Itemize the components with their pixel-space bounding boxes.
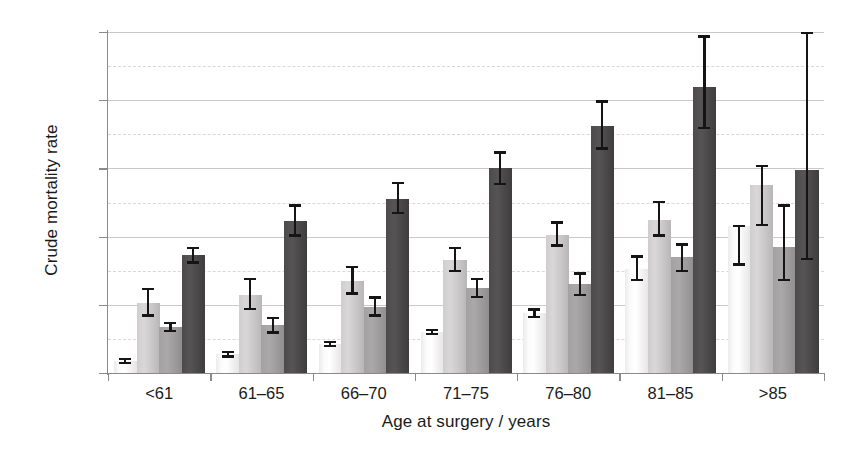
error-bar-series-2-<61 <box>137 288 160 317</box>
error-bar-series-3->85 <box>773 204 796 281</box>
error-bar-cap-upper <box>698 35 710 37</box>
error-bar-series-4-76–80 <box>591 100 614 149</box>
bar-series-4-81–85 <box>693 87 716 373</box>
bar-series-1-76–80 <box>523 313 546 373</box>
error-bar-cap-upper <box>528 308 540 310</box>
bar-series-4-71–75 <box>489 168 512 373</box>
error-bar-series-4->85 <box>795 32 818 260</box>
error-bar-series-2->85 <box>750 165 773 226</box>
error-bar-series-1-71–75 <box>421 329 444 336</box>
x-category-label->85: >85 <box>722 384 824 403</box>
bar-series-3-76–80 <box>568 284 591 373</box>
error-bar-cap-upper <box>289 204 301 206</box>
x-tick-mark <box>415 373 416 381</box>
y-tick-mark <box>99 305 108 306</box>
error-bar-stem <box>579 272 581 296</box>
error-bar-cap-upper <box>369 296 381 298</box>
bar-series-2-66–70 <box>341 281 364 373</box>
bar-series-2-71–75 <box>443 260 466 373</box>
error-bar-cap-upper <box>494 151 506 153</box>
x-category-label-61–65: 61–65 <box>210 384 312 403</box>
error-bar-cap-lower <box>471 296 483 298</box>
error-bar-cap-lower <box>596 147 608 149</box>
error-bar-series-1-81–85 <box>625 255 648 281</box>
error-bar-cap-upper <box>653 201 665 203</box>
error-bar-cap-upper <box>324 341 336 343</box>
error-bar-series-2-76–80 <box>546 221 569 247</box>
error-bar-stem <box>738 225 740 266</box>
x-category-label-81–85: 81–85 <box>619 384 721 403</box>
bar-series-2-81–85 <box>648 220 671 373</box>
error-bar-cap-upper <box>631 255 643 257</box>
bar-series-4-76–80 <box>591 126 614 373</box>
error-bar-series-1-61–65 <box>216 351 239 358</box>
error-bar-cap-lower <box>653 234 665 236</box>
error-bar-cap-upper <box>471 278 483 280</box>
error-bar-series-2-81–85 <box>648 201 671 237</box>
error-bar-cap-lower <box>494 183 506 185</box>
x-category-label-76–80: 76–80 <box>517 384 619 403</box>
error-bar-series-2-66–70 <box>341 266 364 295</box>
error-bar-series-3-66–70 <box>364 296 387 316</box>
error-bar-series-3-71–75 <box>466 278 489 298</box>
error-bar-stem <box>658 201 660 237</box>
error-bar-series-2-71–75 <box>443 247 466 273</box>
error-bar-cap-upper <box>346 266 358 268</box>
error-bar-stem <box>249 278 251 310</box>
bar-series-4-66–70 <box>386 199 409 373</box>
error-bar-series-4-61–65 <box>284 204 307 236</box>
bar-series-3-81–85 <box>671 257 694 373</box>
error-bar-stem <box>499 151 501 185</box>
error-bar-cap-upper <box>801 32 813 34</box>
error-bar-series-4-71–75 <box>489 151 512 185</box>
bar-series-4-61–65 <box>284 221 307 373</box>
bar-series-4-<61 <box>182 255 205 373</box>
bar-series-3-<61 <box>159 327 182 373</box>
error-bar-cap-lower <box>756 224 768 226</box>
error-bar-cap-lower <box>426 333 438 335</box>
gridline-major <box>108 237 824 238</box>
error-bar-stem <box>806 32 808 260</box>
error-bar-stem <box>556 221 558 247</box>
error-bar-stem <box>783 204 785 281</box>
gridline-major <box>108 100 824 101</box>
error-bar-cap-upper <box>449 247 461 249</box>
error-bar-stem <box>454 247 456 273</box>
error-bar-series-1-<61 <box>114 358 137 365</box>
error-bar-series-1->85 <box>728 225 751 266</box>
error-bar-cap-lower <box>142 314 154 316</box>
error-bar-cap-lower <box>551 244 563 246</box>
error-bar-cap-upper <box>574 272 586 274</box>
error-bar-stem <box>351 266 353 295</box>
error-bar-cap-lower <box>801 258 813 260</box>
error-bar-stem <box>681 243 683 272</box>
error-bar-cap-lower <box>631 279 643 281</box>
error-bar-series-3-<61 <box>159 322 182 332</box>
error-bar-series-4-81–85 <box>693 35 716 129</box>
error-bar-cap-lower <box>119 362 131 364</box>
error-bar-series-2-61–65 <box>239 278 262 310</box>
error-bar-cap-lower <box>733 263 745 265</box>
gridline-major <box>108 32 824 33</box>
error-bar-cap-upper <box>733 225 745 227</box>
x-tick-mark <box>517 373 518 381</box>
error-bar-cap-upper <box>267 317 279 319</box>
error-bar-cap-upper <box>676 243 688 245</box>
error-bar-series-3-61–65 <box>261 317 284 334</box>
error-bar-cap-lower <box>528 316 540 318</box>
error-bar-series-1-76–80 <box>523 308 546 318</box>
bar-series-1-66–70 <box>319 344 342 373</box>
crude-mortality-bar-chart: Crude mortality rate Age at surgery / ye… <box>0 0 842 455</box>
x-axis-line <box>107 373 825 374</box>
error-bar-cap-lower <box>164 330 176 332</box>
error-bar-cap-upper <box>778 204 790 206</box>
error-bar-cap-upper <box>187 247 199 249</box>
error-bar-cap-upper <box>392 182 404 184</box>
y-axis-title: Crude mortality rate <box>42 60 62 340</box>
error-bar-stem <box>761 165 763 226</box>
x-tick-mark <box>824 373 825 381</box>
gridline-minor <box>108 66 824 67</box>
error-bar-cap-lower <box>324 345 336 347</box>
error-bar-cap-lower <box>698 127 710 129</box>
error-bar-cap-lower <box>574 294 586 296</box>
